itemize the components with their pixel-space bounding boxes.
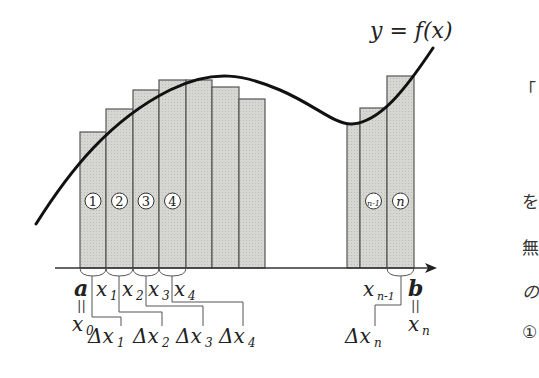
label-x3-sub: 3 bbox=[162, 289, 170, 303]
delta-x4: Δx bbox=[218, 324, 245, 348]
side-text-line-3: 無 bbox=[522, 234, 539, 259]
bar-index-label: 2 bbox=[115, 194, 123, 209]
bar-index-label: 3 bbox=[142, 194, 150, 209]
delta-x2: Δx bbox=[132, 324, 159, 348]
bar-index-label: 1 bbox=[89, 194, 97, 209]
rectangle-bars: 1234n-1n bbox=[80, 76, 414, 268]
delta-x3-sub: 3 bbox=[205, 336, 213, 350]
delta-x1-sub: 1 bbox=[117, 336, 125, 350]
bar-6 bbox=[212, 87, 239, 268]
bar-9 bbox=[360, 108, 387, 268]
riemann-sum-diagram: 1234n-1n y = f(x) a || x 0 x 1 x 2 x 3 x bbox=[0, 0, 539, 378]
side-text-line-2: を bbox=[522, 188, 539, 213]
side-text-line-5: ① bbox=[522, 322, 537, 342]
label-x4-sub: 4 bbox=[187, 289, 196, 303]
delta-labels: Δx 1 Δx 2 Δx 3 Δx 4 Δx n bbox=[87, 324, 382, 350]
label-xn-1-sub: n-1 bbox=[377, 290, 395, 303]
bar-index-label: 4 bbox=[168, 194, 176, 209]
point-labels: a || x 0 x 1 x 2 x 3 x 4 x n-1 b || x n bbox=[72, 275, 430, 338]
bar-10 bbox=[387, 76, 414, 268]
delta-x3: Δx bbox=[175, 324, 202, 348]
bar-4 bbox=[159, 80, 186, 268]
bar-5 bbox=[186, 80, 212, 268]
label-x2-sub: 2 bbox=[135, 289, 144, 303]
equals-sign-b: || bbox=[411, 298, 420, 313]
label-x4: x bbox=[174, 277, 185, 301]
label-xn-sub: n bbox=[422, 324, 430, 338]
label-xn-1: x bbox=[363, 277, 374, 301]
label-x1: x bbox=[96, 277, 107, 301]
bar-index-label: n bbox=[396, 194, 404, 209]
side-text-bracket: 「 bbox=[519, 76, 536, 101]
bar-3 bbox=[133, 90, 159, 268]
delta-x2-sub: 2 bbox=[161, 336, 170, 350]
equals-sign-a: || bbox=[77, 298, 86, 313]
delta-xn-sub: n bbox=[374, 336, 382, 350]
width-brackets bbox=[80, 268, 414, 276]
label-x3: x bbox=[148, 277, 159, 301]
label-x0: x bbox=[72, 312, 83, 336]
label-x1-sub: 1 bbox=[110, 289, 118, 303]
label-x2: x bbox=[122, 277, 133, 301]
delta-x1: Δx bbox=[87, 324, 114, 348]
side-text-line-4: の bbox=[522, 278, 539, 303]
curve-label: y = f(x) bbox=[369, 18, 453, 43]
delta-xn: Δx bbox=[344, 324, 371, 348]
bar-index-label: n-1 bbox=[367, 199, 380, 208]
bar-7 bbox=[239, 99, 265, 268]
label-xn: x bbox=[408, 312, 419, 336]
delta-x4-sub: 4 bbox=[247, 336, 256, 350]
bar-8 bbox=[347, 124, 360, 268]
